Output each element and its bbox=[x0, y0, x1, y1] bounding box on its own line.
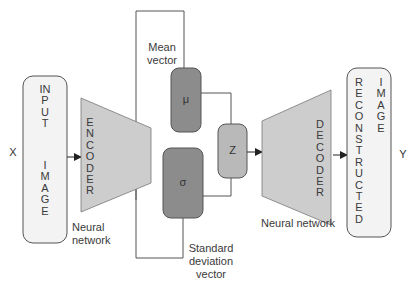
decoder-label: DECODER bbox=[314, 119, 326, 199]
mean-vector-caption: Mean vector bbox=[142, 41, 182, 67]
mu-to-z-line bbox=[201, 93, 231, 124]
std-vector-caption: Standard deviation vector bbox=[186, 242, 236, 281]
mu-symbol: μ bbox=[171, 93, 201, 105]
z-symbol: Z bbox=[218, 144, 247, 156]
output-symbol-y: Y bbox=[396, 148, 410, 160]
encoder-label: ENCODER bbox=[84, 117, 96, 197]
input-label-line2: IMAGE bbox=[39, 160, 51, 217]
encoder-caption: Neural network bbox=[72, 221, 122, 247]
decoder-caption: Neural network bbox=[258, 217, 338, 230]
sigma-to-z-line bbox=[203, 178, 231, 196]
input-label-line1: INPUT bbox=[39, 84, 51, 130]
output-label-line1: RECONSTRUCTED bbox=[353, 77, 365, 225]
sigma-symbol: σ bbox=[163, 176, 203, 188]
output-label-line2: IMAGE bbox=[375, 77, 387, 134]
input-symbol-x: X bbox=[6, 146, 20, 158]
